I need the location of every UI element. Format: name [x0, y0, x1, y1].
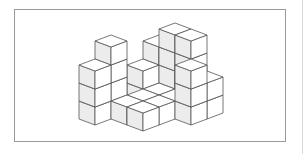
cube-stack-diagram — [0, 0, 304, 154]
